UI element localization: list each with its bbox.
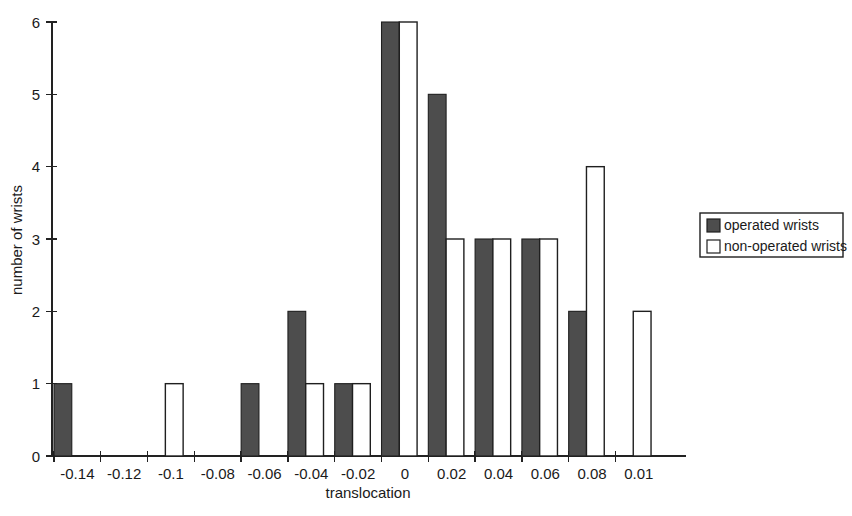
chart-legend: operated wristsnon-operated wrists [700,213,847,257]
x-tick-label: 0.04 [484,465,513,482]
bar-non-operated [399,22,417,456]
bar-non-operated [493,239,511,456]
y-axis-title: number of wrists [8,185,25,295]
y-tick-label: 3 [32,231,40,248]
bar-operated [241,384,259,456]
x-tick-label: -0.12 [107,465,141,482]
bar-non-operated [353,384,371,456]
x-tick-label: 0.08 [577,465,606,482]
x-tick-label: -0.02 [341,465,375,482]
bar-non-operated [165,384,183,456]
bar-operated [475,239,493,456]
bar-operated [54,384,72,456]
legend-swatch-non-operated-icon [707,240,720,253]
bar-group [54,22,651,456]
bar-operated [335,384,353,456]
x-tick-label: -0.04 [294,465,328,482]
bar-operated [382,22,400,456]
x-tick-label: 0.01 [624,465,653,482]
bar-operated [428,94,446,456]
y-tick-label: 0 [32,448,40,465]
y-tick-label: 4 [32,158,40,175]
y-axis-ticks: 0123456 [32,14,57,465]
x-tick-label: 0.02 [437,465,466,482]
y-tick-label: 6 [32,14,40,31]
bar-operated [569,311,587,456]
x-tick-label: 0 [401,465,409,482]
y-tick-label: 5 [32,86,40,103]
y-tick-label: 1 [32,375,40,392]
legend-label: non-operated wrists [724,238,847,254]
chart-canvas: number of wrists translocation 0123456 -… [0,0,852,516]
bar-operated [288,311,306,456]
x-tick-label: -0.08 [201,465,235,482]
x-tick-label: 0.06 [531,465,560,482]
bar-operated [522,239,540,456]
y-tick-label: 2 [32,303,40,320]
legend-swatch-operated-icon [707,219,720,232]
x-tick-label: -0.14 [60,465,94,482]
bar-non-operated [306,384,324,456]
histogram-chart: number of wrists translocation 0123456 -… [0,0,852,516]
bar-non-operated [586,167,604,456]
legend-label: operated wrists [724,217,819,233]
bar-non-operated [633,311,651,456]
x-tick-label: -0.06 [247,465,281,482]
x-axis-title: translocation [325,484,410,501]
x-tick-label: -0.1 [158,465,184,482]
bar-non-operated [446,239,464,456]
bar-non-operated [540,239,558,456]
